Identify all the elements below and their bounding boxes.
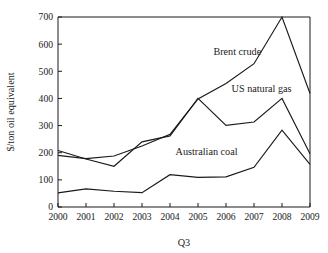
y-tick-label: 500 <box>39 66 54 77</box>
y-tick-label: 200 <box>39 147 54 158</box>
y-tick-label: 400 <box>39 93 54 104</box>
y-axis-title: $/ton oil equivalent <box>5 72 16 151</box>
x-tick-label: 2009 <box>300 211 319 222</box>
y-tick-label: 300 <box>39 120 54 131</box>
x-tick-label: 2005 <box>188 211 207 222</box>
x-tick-label: 2001 <box>76 211 95 222</box>
series-annotation-brent-crude: Brent crude <box>213 46 261 57</box>
x-tick-label: 2004 <box>160 211 179 222</box>
chart-axes <box>58 17 310 207</box>
x-tick-label: 2002 <box>104 211 123 222</box>
series-annotation-australian-coal: Australian coal <box>176 146 238 157</box>
plot-frame <box>58 17 310 207</box>
x-tick-label: 2007 <box>244 211 263 222</box>
x-tick-label: 2006 <box>216 211 235 222</box>
line-chart: 0100200300400500600700 20002001200220032… <box>0 0 328 253</box>
y-tick-label: 100 <box>39 174 54 185</box>
x-tick-label: 2003 <box>132 211 151 222</box>
chart-series <box>58 17 310 193</box>
x-tick-label: 2008 <box>272 211 291 222</box>
chart-container: 0100200300400500600700 20002001200220032… <box>0 0 328 253</box>
y-tick-label: 700 <box>39 11 54 22</box>
x-axis-title: Q3 <box>178 237 190 248</box>
x-tick-label: 2000 <box>48 211 67 222</box>
x-axis-ticks: 2000200120022003200420052006200720082009 <box>48 203 319 222</box>
y-tick-label: 600 <box>39 39 54 50</box>
series-annotation-us-natural-gas: US natural gas <box>232 83 292 94</box>
